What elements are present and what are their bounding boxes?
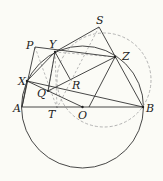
label-z: Z xyxy=(121,50,130,63)
label-b: B xyxy=(145,102,154,115)
label-q: Q xyxy=(37,87,46,100)
label-o: O xyxy=(78,109,87,122)
label-p: P xyxy=(25,39,34,52)
dashed-lines xyxy=(35,27,115,108)
label-s: S xyxy=(96,14,104,27)
label-r: R xyxy=(71,79,80,92)
label-a: A xyxy=(12,102,21,115)
geometry-diagram: P Y S Z X Q R A T O B xyxy=(0,0,163,181)
label-x: X xyxy=(17,75,27,88)
label-t: T xyxy=(48,108,57,121)
label-y: Y xyxy=(49,38,58,51)
